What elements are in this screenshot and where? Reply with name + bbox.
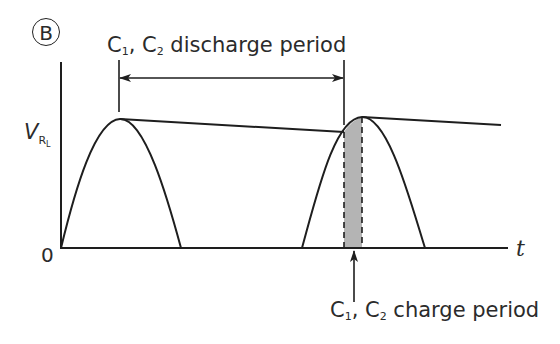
charge-period-label: C1, C2 charge period [330, 298, 539, 323]
charge-period-shading [344, 117, 362, 248]
discharge-period-label: C1, C2 discharge period [107, 33, 346, 58]
panel-label: B [32, 18, 60, 46]
x-axis-label: t [516, 236, 525, 261]
second-discharge-ramp [362, 117, 501, 125]
first-half-cycle [61, 119, 181, 248]
discharge-ramp [120, 119, 344, 132]
y-axis-label: VRL [24, 120, 51, 149]
origin-label: 0 [41, 243, 54, 267]
second-half-cycle [302, 117, 425, 248]
